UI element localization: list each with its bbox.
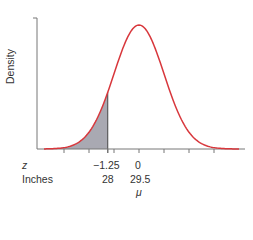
y-axis-label: Density	[4, 49, 16, 84]
z-tick-neg: −1.25	[93, 160, 120, 171]
mu-label: μ	[136, 187, 142, 198]
inches-tick-28: 28	[102, 174, 114, 185]
density-curve	[44, 25, 239, 149]
z-row-label: z	[22, 160, 27, 171]
inches-row-label: Inches	[22, 174, 53, 185]
z-tick-zero: 0	[135, 160, 141, 171]
inches-tick-mean: 29.5	[130, 174, 150, 185]
shaded-area	[44, 92, 108, 149]
x-ticks	[64, 149, 214, 153]
